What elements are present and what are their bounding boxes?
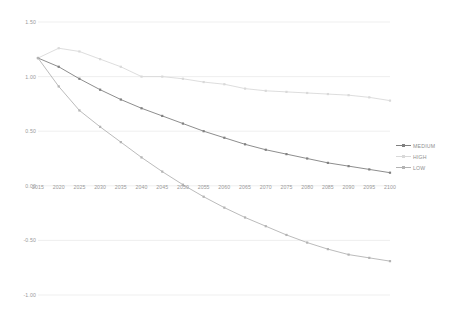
series-line-low	[38, 58, 390, 261]
data-point-medium-2065	[244, 143, 246, 145]
x-tick-label: 2095	[358, 184, 380, 190]
data-point-low-2065	[244, 216, 246, 218]
y-tick-label: -1.00	[2, 292, 36, 298]
legend-label: HIGH	[413, 154, 427, 160]
x-axis: 2015202020252030203520402045205020552060…	[38, 184, 390, 194]
legend-swatch-icon	[396, 153, 411, 160]
series-line-high	[38, 48, 390, 100]
data-point-medium-2075	[285, 153, 287, 155]
x-tick-label: 2085	[317, 184, 339, 190]
data-point-low-2085	[327, 248, 329, 250]
data-point-high-2060	[223, 83, 225, 85]
data-point-high-2100	[389, 100, 391, 102]
data-point-high-2075	[285, 91, 287, 93]
data-point-medium-2080	[306, 157, 308, 159]
x-tick-label: 2055	[193, 184, 215, 190]
data-point-medium-2045	[161, 115, 163, 117]
y-tick-label: 1.00	[2, 74, 36, 80]
data-point-low-2080	[306, 241, 308, 243]
legend-swatch-icon	[396, 164, 411, 171]
data-point-medium-2050	[182, 122, 184, 124]
line-chart: 1.501.000.500.00-0.50-1.00 2015202020252…	[0, 0, 454, 312]
x-tick-label: 2035	[110, 184, 132, 190]
x-tick-label: 2075	[275, 184, 297, 190]
data-point-low-2040	[140, 156, 142, 158]
data-point-medium-2090	[347, 165, 349, 167]
legend-marker	[402, 166, 405, 169]
data-point-medium-2095	[368, 168, 370, 170]
legend-marker	[402, 155, 405, 158]
data-point-medium-2060	[223, 137, 225, 139]
series-markers	[37, 47, 391, 262]
y-axis: 1.501.000.500.00-0.50-1.00	[0, 22, 36, 295]
x-tick-label: 2030	[89, 184, 111, 190]
data-point-low-2090	[347, 254, 349, 256]
data-point-low-2075	[285, 234, 287, 236]
legend-marker	[402, 144, 405, 147]
x-tick-label: 2050	[172, 184, 194, 190]
data-point-low-2015	[37, 57, 39, 59]
data-point-low-2045	[161, 171, 163, 173]
data-point-high-2030	[99, 58, 101, 60]
x-tick-label: 2070	[255, 184, 277, 190]
data-point-low-2025	[78, 109, 80, 111]
plot-area	[38, 22, 390, 295]
series-lines	[38, 48, 390, 261]
data-point-low-2060	[223, 207, 225, 209]
data-point-high-2085	[327, 93, 329, 95]
x-tick-label: 2020	[48, 184, 70, 190]
x-tick-label: 2065	[234, 184, 256, 190]
y-tick-label: -0.50	[2, 237, 36, 243]
data-point-low-2100	[389, 260, 391, 262]
data-point-high-2050	[182, 78, 184, 80]
legend-swatch-icon	[396, 142, 411, 149]
data-point-high-2080	[306, 92, 308, 94]
legend-item-medium[interactable]: MEDIUM	[396, 140, 452, 151]
x-tick-label: 2040	[131, 184, 153, 190]
data-point-medium-2070	[265, 149, 267, 151]
data-point-high-2020	[58, 47, 60, 49]
data-point-medium-2085	[327, 162, 329, 164]
data-point-high-2055	[203, 81, 205, 83]
plot-svg	[38, 22, 390, 295]
data-point-high-2025	[78, 50, 80, 52]
x-tick-label: 2080	[296, 184, 318, 190]
x-tick-label: 2090	[338, 184, 360, 190]
data-point-high-2095	[368, 96, 370, 98]
data-point-medium-2040	[140, 107, 142, 109]
data-point-medium-2030	[99, 89, 101, 91]
y-tick-label: 0.50	[2, 128, 36, 134]
data-point-low-2035	[120, 141, 122, 143]
series-line-medium	[38, 58, 390, 173]
data-point-low-2095	[368, 257, 370, 259]
data-point-high-2070	[265, 90, 267, 92]
y-tick-label: 1.50	[2, 19, 36, 25]
gridlines	[38, 22, 390, 295]
data-point-high-2035	[120, 66, 122, 68]
chart-legend: MEDIUMHIGHLOW	[396, 140, 452, 173]
data-point-medium-2020	[58, 66, 60, 68]
x-tick-label: 2100	[379, 184, 401, 190]
data-point-high-2040	[140, 76, 142, 78]
legend-label: LOW	[413, 165, 425, 171]
data-point-high-2045	[161, 76, 163, 78]
data-point-high-2065	[244, 88, 246, 90]
legend-label: MEDIUM	[413, 143, 435, 149]
x-tick-label: 2025	[68, 184, 90, 190]
data-point-low-2020	[58, 85, 60, 87]
data-point-medium-2100	[389, 172, 391, 174]
data-point-low-2030	[99, 126, 101, 128]
data-point-low-2070	[265, 225, 267, 227]
data-point-high-2090	[347, 94, 349, 96]
x-tick-label: 2045	[151, 184, 173, 190]
x-tick-label: 2015	[27, 184, 49, 190]
data-point-medium-2025	[78, 78, 80, 80]
x-tick-label: 2060	[213, 184, 235, 190]
data-point-medium-2055	[203, 130, 205, 132]
legend-item-low[interactable]: LOW	[396, 162, 452, 173]
legend-item-high[interactable]: HIGH	[396, 151, 452, 162]
data-point-low-2055	[203, 196, 205, 198]
data-point-medium-2035	[120, 98, 122, 100]
